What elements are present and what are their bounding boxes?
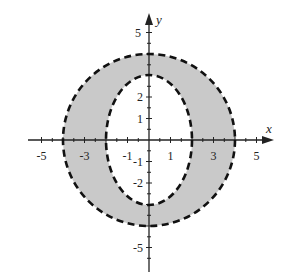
y-tick-label: 5 <box>135 26 141 40</box>
x-tick-label: -1 <box>123 149 133 163</box>
y-tick-label: 1 <box>137 112 143 126</box>
x-tick-label: -3 <box>80 149 90 163</box>
x-tick-label: 3 <box>211 149 217 163</box>
x-tick-label: 1 <box>168 149 174 163</box>
x-tick-label: -5 <box>37 149 47 163</box>
y-tick-label: 2 <box>137 90 143 104</box>
y-tick-label: -1 <box>133 155 143 169</box>
x-tick-label: 5 <box>254 149 260 163</box>
y-tick-label: -2 <box>133 176 143 190</box>
y-tick-label: -5 <box>133 241 143 255</box>
y-axis-label: y <box>154 12 162 27</box>
shaded-region <box>0 0 283 274</box>
x-axis-label: x <box>265 121 272 136</box>
region-plot: x -5 -3 -1 1 3 5 <box>0 0 283 274</box>
